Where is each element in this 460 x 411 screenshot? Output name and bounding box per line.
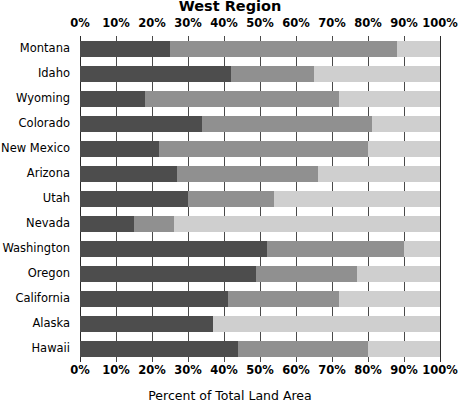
- bar-segment-c[interactable]: [372, 116, 440, 132]
- bar-row[interactable]: [80, 316, 440, 332]
- bar-segment-a[interactable]: [80, 116, 202, 132]
- x-tick-label: 20%: [138, 363, 166, 377]
- bar-segment-b[interactable]: [170, 41, 397, 57]
- bar-segment-b[interactable]: [145, 91, 339, 107]
- x-tick-label: 20%: [138, 16, 166, 30]
- y-tick-label: Montana: [20, 42, 70, 55]
- bar-segment-c[interactable]: [274, 191, 440, 207]
- bar-segment-b[interactable]: [177, 166, 317, 182]
- bar-segment-b[interactable]: [134, 216, 174, 232]
- bar-row[interactable]: [80, 41, 440, 57]
- chart-container: West Region 0%10%20%30%40%50%60%70%80%90…: [0, 0, 460, 411]
- x-tick-label: 40%: [210, 16, 238, 30]
- y-tick-label: Nevada: [26, 217, 70, 230]
- x-tick-label: 30%: [174, 16, 202, 30]
- x-tick-label: 10%: [102, 363, 130, 377]
- bars-layer: [80, 36, 440, 362]
- y-tick-label: Utah: [43, 192, 70, 205]
- bar-segment-c[interactable]: [404, 241, 440, 257]
- y-tick-label: Oregon: [28, 267, 70, 280]
- x-tick-label: 0%: [70, 363, 90, 377]
- bar-segment-a[interactable]: [80, 91, 145, 107]
- plot-area: [80, 36, 440, 362]
- bar-row[interactable]: [80, 166, 440, 182]
- bar-row[interactable]: [80, 266, 440, 282]
- x-tick-label: 60%: [282, 363, 310, 377]
- bar-segment-c[interactable]: [213, 316, 440, 332]
- x-tick-label: 80%: [354, 16, 382, 30]
- bar-segment-b[interactable]: [238, 341, 368, 357]
- x-tick-label: 50%: [246, 363, 274, 377]
- y-tick-label: Wyoming: [16, 92, 70, 105]
- y-tick-label: New Mexico: [1, 142, 70, 155]
- x-tick-label: 80%: [354, 363, 382, 377]
- bar-segment-a[interactable]: [80, 141, 159, 157]
- y-tick-label: Arizona: [27, 167, 70, 180]
- bar-row[interactable]: [80, 241, 440, 257]
- bar-segment-c[interactable]: [318, 166, 440, 182]
- bar-row[interactable]: [80, 341, 440, 357]
- bar-segment-a[interactable]: [80, 266, 256, 282]
- bar-segment-a[interactable]: [80, 241, 267, 257]
- x-tick-label: 100%: [422, 363, 458, 377]
- bar-segment-b[interactable]: [202, 116, 371, 132]
- bar-row[interactable]: [80, 116, 440, 132]
- x-tick-label: 90%: [390, 16, 418, 30]
- bar-row[interactable]: [80, 291, 440, 307]
- bar-segment-b[interactable]: [228, 291, 340, 307]
- y-tick-label: Washington: [2, 242, 70, 255]
- y-tick-label: Idaho: [38, 67, 70, 80]
- y-axis-category-labels: MontanaIdahoWyomingColoradoNew MexicoAri…: [0, 36, 76, 362]
- bar-segment-c[interactable]: [397, 41, 440, 57]
- bar-segment-c[interactable]: [314, 66, 440, 82]
- x-tick-label: 70%: [318, 16, 346, 30]
- y-tick-label: Hawaii: [31, 342, 70, 355]
- bar-segment-a[interactable]: [80, 41, 170, 57]
- chart-title: West Region: [0, 0, 460, 14]
- bar-segment-c[interactable]: [174, 216, 440, 232]
- x-axis-labels-bottom: 0%10%20%30%40%50%60%70%80%90%100%: [0, 363, 460, 379]
- bar-segment-c[interactable]: [339, 291, 440, 307]
- bar-segment-c[interactable]: [368, 341, 440, 357]
- y-tick-label: Alaska: [32, 317, 70, 330]
- bar-row[interactable]: [80, 216, 440, 232]
- bar-segment-a[interactable]: [80, 66, 231, 82]
- x-tick-label: 90%: [390, 363, 418, 377]
- x-tick-label: 0%: [70, 16, 90, 30]
- bar-row[interactable]: [80, 66, 440, 82]
- x-tick-label: 40%: [210, 363, 238, 377]
- bar-segment-c[interactable]: [357, 266, 440, 282]
- bar-segment-b[interactable]: [231, 66, 314, 82]
- bar-segment-c[interactable]: [368, 141, 440, 157]
- bar-segment-b[interactable]: [188, 191, 274, 207]
- x-tick-label: 10%: [102, 16, 130, 30]
- bar-segment-a[interactable]: [80, 341, 238, 357]
- x-tick-label: 30%: [174, 363, 202, 377]
- bar-segment-a[interactable]: [80, 166, 177, 182]
- bar-row[interactable]: [80, 191, 440, 207]
- bar-row[interactable]: [80, 91, 440, 107]
- x-tick-label: 100%: [422, 16, 458, 30]
- bar-segment-c[interactable]: [339, 91, 440, 107]
- y-tick-label: California: [15, 292, 70, 305]
- bar-segment-b[interactable]: [267, 241, 404, 257]
- bar-segment-a[interactable]: [80, 216, 134, 232]
- gridline: [440, 36, 441, 362]
- x-tick-label: 70%: [318, 363, 346, 377]
- bar-segment-a[interactable]: [80, 191, 188, 207]
- bar-segment-a[interactable]: [80, 291, 228, 307]
- x-tick-label: 50%: [246, 16, 274, 30]
- y-tick-label: Colorado: [19, 117, 70, 130]
- bar-segment-b[interactable]: [159, 141, 368, 157]
- bar-segment-a[interactable]: [80, 316, 213, 332]
- bar-row[interactable]: [80, 141, 440, 157]
- x-tick-label: 60%: [282, 16, 310, 30]
- x-axis-title: Percent of Total Land Area: [0, 388, 460, 403]
- bar-segment-b[interactable]: [256, 266, 357, 282]
- x-axis-labels-top: 0%10%20%30%40%50%60%70%80%90%100%: [0, 16, 460, 32]
